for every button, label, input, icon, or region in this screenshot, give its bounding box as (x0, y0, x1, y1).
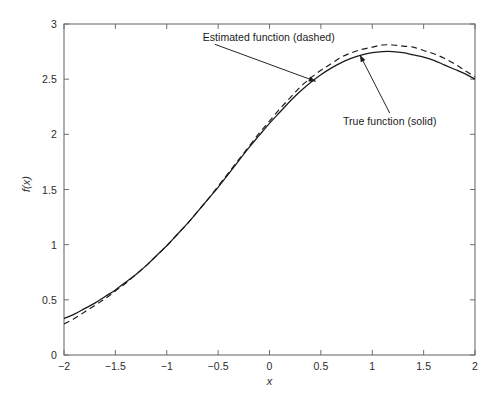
y-tick-label: 2.5 (0, 73, 57, 85)
x-tick-label: 0 (267, 360, 273, 372)
x-tick-label: 2 (472, 360, 478, 372)
curve-true (64, 51, 475, 318)
y-tick-label: 0.5 (0, 294, 57, 306)
y-axis-title: f(x) (20, 176, 32, 192)
tick-marks (64, 24, 475, 355)
y-tick-label: 1 (0, 239, 57, 251)
y-tick-label: 3 (0, 18, 57, 30)
chart-plot-area (0, 0, 500, 418)
x-tick-label: 1 (369, 360, 375, 372)
annotation-estimated-function: Estimated function (dashed) (203, 31, 335, 43)
annotation-arrow-head (360, 55, 366, 62)
x-tick-label: 0.5 (313, 360, 328, 372)
x-tick-label: 1.5 (416, 360, 431, 372)
x-axis-title: x (267, 375, 273, 387)
annotation-true-function: True function (solid) (343, 115, 436, 127)
axes-box (64, 24, 475, 355)
x-tick-label: −1.5 (105, 360, 126, 372)
x-tick-label: −2 (58, 360, 70, 372)
x-tick-label: −0.5 (208, 360, 229, 372)
data-series (64, 45, 475, 324)
x-tick-label: −1 (161, 360, 173, 372)
y-tick-label: 0 (0, 349, 57, 361)
figure-canvas: −2−1.5−1−0.500.511.52 00.511.522.53 x f(… (0, 0, 500, 418)
y-tick-label: 2 (0, 128, 57, 140)
